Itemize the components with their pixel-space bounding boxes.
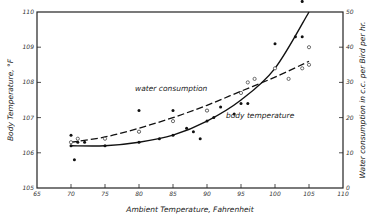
y-right-tick-label: 0	[346, 184, 350, 191]
y-tick-label: 107	[23, 114, 35, 121]
x-tick-label: 105	[303, 190, 315, 197]
y-tick-label: 105	[23, 184, 35, 191]
water-point	[301, 67, 304, 70]
data-points	[69, 0, 310, 161]
body-temp-point	[83, 141, 86, 144]
body-temp-point	[246, 102, 249, 105]
body-temp-point	[172, 134, 175, 137]
y-tick-label: 106	[23, 149, 35, 156]
y-right-tick-label: 10	[346, 149, 354, 156]
body-temp-point	[274, 42, 277, 45]
water-consumption-annotation: water consumption	[135, 84, 208, 93]
x-tick-label: 100	[269, 190, 281, 197]
body-temp-point	[185, 127, 188, 130]
y-axis-ticks: 105106107108109110	[23, 8, 41, 191]
body-temp-point	[104, 144, 107, 147]
water-consumption-curve	[71, 61, 309, 142]
x-tick-label: 65	[33, 190, 41, 197]
body-temp-point	[70, 134, 73, 137]
y-axis-right-label: Water consumption in c.c. per Bird per h…	[358, 22, 367, 179]
x-tick-label: 110	[337, 190, 349, 197]
x-tick-label: 75	[101, 190, 109, 197]
body-temperature-annotation: body temperature	[226, 111, 295, 120]
water-point	[287, 77, 290, 80]
water-point	[103, 137, 106, 140]
body-temp-point	[76, 141, 79, 144]
body-temp-point	[73, 158, 76, 161]
body-temp-point	[240, 102, 243, 105]
y-right-tick-label: 30	[346, 78, 354, 85]
fit-curves	[71, 12, 309, 146]
body-temperature-curve	[71, 12, 309, 146]
chart: 65707580859095100105110 1051061071081091…	[0, 0, 375, 222]
water-point	[307, 63, 310, 66]
water-point	[239, 91, 242, 94]
x-axis-ticks: 65707580859095100105110	[33, 184, 349, 197]
water-point	[253, 77, 256, 80]
body-temp-point	[172, 109, 175, 112]
y-tick-label: 110	[23, 8, 35, 15]
y-right-tick-label: 50	[346, 8, 354, 15]
body-temp-point	[199, 137, 202, 140]
water-point	[69, 141, 72, 144]
body-temp-point	[301, 35, 304, 38]
water-point	[171, 120, 174, 123]
body-temp-point	[212, 116, 215, 119]
water-point	[246, 81, 249, 84]
water-point	[307, 46, 310, 49]
body-temp-point	[294, 35, 297, 38]
y-axis-label: Body Temperature, °F	[6, 58, 15, 141]
x-tick-label: 80	[135, 190, 143, 197]
body-temp-point	[138, 109, 141, 112]
y-right-tick-label: 20	[346, 114, 354, 121]
y-tick-label: 109	[23, 43, 35, 50]
water-point	[273, 67, 276, 70]
x-tick-label: 90	[203, 190, 211, 197]
body-temp-point	[206, 120, 209, 123]
plot-frame	[37, 12, 343, 188]
x-tick-label: 95	[237, 190, 245, 197]
x-axis-label: Ambient Temperature, Fahrenheit	[125, 205, 254, 214]
body-temp-point	[301, 0, 304, 3]
body-temp-point	[70, 144, 73, 147]
y-axis-right-ticks: 01020304050	[339, 8, 354, 191]
water-point	[137, 130, 140, 133]
x-tick-label: 85	[169, 190, 177, 197]
body-temp-point	[138, 141, 141, 144]
body-temp-point	[158, 137, 161, 140]
body-temp-point	[192, 130, 195, 133]
water-point	[76, 137, 79, 140]
y-tick-label: 108	[23, 78, 35, 85]
water-point	[205, 109, 208, 112]
y-right-tick-label: 40	[346, 43, 354, 50]
x-tick-label: 70	[67, 190, 75, 197]
body-temp-point	[219, 106, 222, 109]
